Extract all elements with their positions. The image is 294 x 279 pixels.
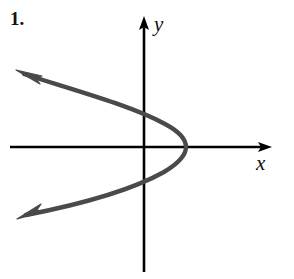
y-axis-label: y [154, 14, 163, 35]
x-axis-label: x [256, 153, 265, 174]
y-axis [139, 16, 149, 272]
figure-container: 1. y x [0, 0, 294, 279]
curve-upper-arrowhead-icon [16, 70, 42, 84]
curve-lower-arrowhead-icon [17, 204, 43, 219]
x-axis [10, 142, 272, 152]
parabola-curve-group [16, 70, 186, 219]
parabola-curve-path [24, 74, 186, 215]
parabola-graph [0, 0, 294, 279]
